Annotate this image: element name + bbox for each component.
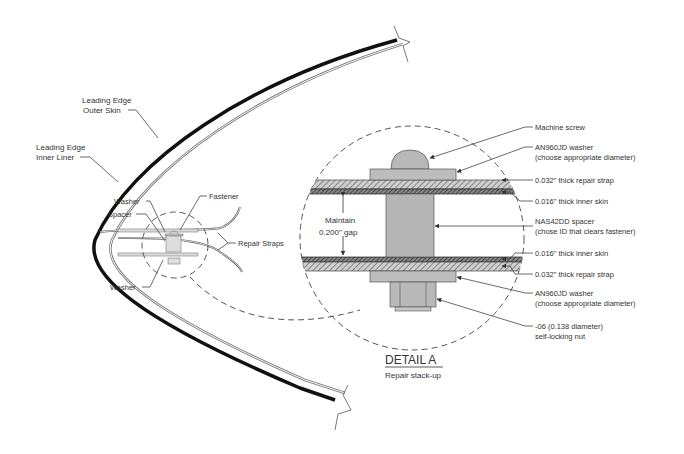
callout-strap-top: 0.032" thick repair strap — [502, 176, 614, 185]
svg-text:Repair Straps: Repair Straps — [238, 239, 284, 248]
svg-text:(chose ID that clears fastener: (chose ID that clears fastener) — [535, 227, 636, 236]
spacer — [386, 194, 434, 257]
svg-text:self-locking nut: self-locking nut — [535, 332, 586, 341]
svg-text:Spacer: Spacer — [108, 210, 132, 219]
svg-text:0.032" thick repair strap: 0.032" thick repair strap — [535, 176, 614, 185]
bottom-washer — [370, 271, 456, 282]
svg-text:Outer Skin: Outer Skin — [83, 106, 121, 115]
svg-text:Fastener: Fastener — [209, 192, 239, 201]
bottom-repair-strap — [290, 262, 570, 271]
label-fastener: Fastener — [180, 192, 239, 230]
svg-text:AN960JD washer: AN960JD washer — [535, 143, 594, 152]
repair-diagram: Leading Edge Outer Skin Leading Edge Inn… — [0, 0, 684, 454]
top-inner-skin — [290, 189, 570, 194]
svg-text:0.032" thick repair strap: 0.032" thick repair strap — [535, 270, 614, 279]
svg-text:Leading Edge: Leading Edge — [82, 96, 132, 105]
top-repair-strap — [290, 180, 570, 189]
callout-washer-top: AN960JD washer (choose appropriate diame… — [457, 143, 636, 172]
svg-text:(choose appropriate diameter): (choose appropriate diameter) — [535, 153, 636, 162]
svg-text:Washer: Washer — [114, 197, 140, 206]
svg-text:Maintain: Maintain — [325, 216, 355, 225]
svg-text:Inner Liner: Inner Liner — [36, 153, 75, 162]
svg-text:0.016" thick inner skin: 0.016" thick inner skin — [535, 249, 608, 258]
gap-dimension: Maintain 0.200" gap — [319, 196, 358, 255]
leading-edge-inner-liner — [110, 44, 403, 393]
svg-text:Washer: Washer — [110, 283, 136, 292]
svg-text:DETAIL A: DETAIL A — [385, 353, 436, 367]
svg-text:0.016" thick inner skin: 0.016" thick inner skin — [535, 197, 608, 206]
callout-washer-bottom: AN960JD washer (choose appropriate diame… — [457, 277, 636, 308]
bottom-inner-skin — [290, 257, 570, 262]
top-washer — [370, 169, 456, 180]
svg-text:NAS42DD spacer: NAS42DD spacer — [535, 217, 595, 226]
svg-text:Leading Edge: Leading Edge — [36, 143, 86, 152]
svg-text:AN960JD washer: AN960JD washer — [535, 289, 594, 298]
svg-text:-06 (0.138 diameter): -06 (0.138 diameter) — [535, 322, 603, 331]
svg-text:0.200" gap: 0.200" gap — [319, 228, 358, 237]
detail-connector-line — [190, 277, 360, 320]
callout-inner-skin-top: 0.016" thick inner skin — [502, 192, 608, 206]
machine-screw-head — [391, 150, 429, 169]
svg-text:Machine screw: Machine screw — [535, 123, 586, 132]
self-locking-nut — [390, 282, 436, 307]
svg-text:(choose appropriate diameter): (choose appropriate diameter) — [535, 299, 636, 308]
label-repair-straps: Repair Straps — [218, 233, 284, 250]
label-inner-liner: Leading Edge Inner Liner — [36, 143, 118, 182]
callout-spacer: NAS42DD spacer (chose ID that clears fas… — [435, 217, 636, 236]
detail-title: DETAIL A Repair stack-up — [385, 353, 443, 380]
label-outer-skin: Leading Edge Outer Skin — [82, 96, 158, 138]
svg-text:Repair stack-up: Repair stack-up — [385, 371, 442, 380]
